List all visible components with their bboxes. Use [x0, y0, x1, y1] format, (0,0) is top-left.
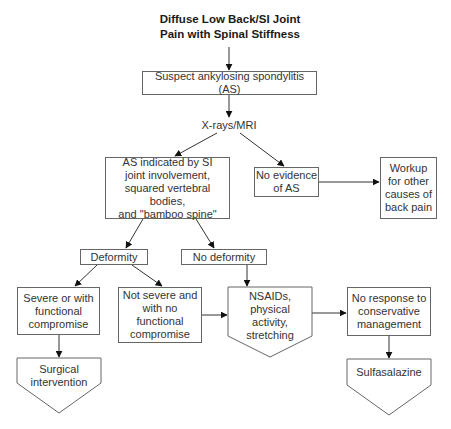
node-no-response: No response to conservative management — [347, 287, 431, 336]
arrow-deformity-to-severe — [75, 265, 97, 286]
arrow-imaging-to-no-evidence — [240, 133, 284, 166]
node-nsaids: NSAIDs, physical activity, stretching — [228, 290, 312, 342]
node-no-evidence: No evidence of AS — [254, 167, 319, 197]
title-line-2: Pain with Spinal Stiffness — [130, 27, 330, 42]
arrow-deformity-to-not-severe — [132, 265, 162, 286]
arrow-as-to-no-deformity — [196, 219, 214, 248]
node-sulfasalazine: Sulfasalazine — [347, 366, 431, 379]
node-not-severe: Not severe and with no functional compro… — [118, 287, 202, 343]
node-suspect-as: Suspect ankylosing spondylitis (AS) — [142, 71, 317, 95]
node-surgical: Surgical intervention — [17, 363, 101, 389]
node-no-deformity: No deformity — [181, 249, 267, 265]
node-imaging: X-rays/MRI — [189, 119, 269, 132]
arrow-imaging-to-as-indicated — [175, 133, 217, 156]
node-as-indicated: AS indicated by SI joint involvement, sq… — [105, 157, 230, 219]
diagram-title: Diffuse Low Back/SI Joint Pain with Spin… — [130, 12, 330, 42]
node-workup: Workup for other causes of back pain — [380, 157, 437, 219]
title-line-1: Diffuse Low Back/SI Joint — [130, 12, 330, 27]
node-deformity: Deformity — [80, 249, 148, 265]
arrow-as-to-deformity — [126, 219, 143, 248]
flowchart: Diffuse Low Back/SI Joint Pain with Spin… — [0, 0, 451, 429]
node-severe: Severe or with functional compromise — [17, 287, 100, 335]
